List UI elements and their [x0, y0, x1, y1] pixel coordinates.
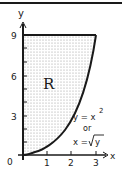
equation-x-equals-sqrt-y-left: x =	[73, 137, 88, 147]
y-tick-3: 3	[11, 112, 17, 122]
equation-or: or	[83, 124, 92, 133]
equation-radicand: y	[95, 137, 100, 147]
y-tick-9: 9	[11, 31, 17, 41]
x-tick-2: 2	[68, 158, 74, 168]
y-tick-6: 6	[11, 72, 17, 82]
y-axis-label: y	[18, 8, 24, 19]
x-tick-3: 3	[93, 158, 99, 168]
region-label: R	[43, 75, 55, 93]
region-diagram: y x 0 9 6 3 1 2 3 R y = x 2 or x = y	[0, 0, 122, 186]
equation-exponent: 2	[99, 107, 103, 115]
x-tick-1: 1	[44, 158, 50, 168]
equation-y-equals-x-squared: y = x	[73, 112, 96, 122]
origin-label: 0	[7, 157, 13, 167]
x-axis-label: x	[110, 151, 116, 161]
